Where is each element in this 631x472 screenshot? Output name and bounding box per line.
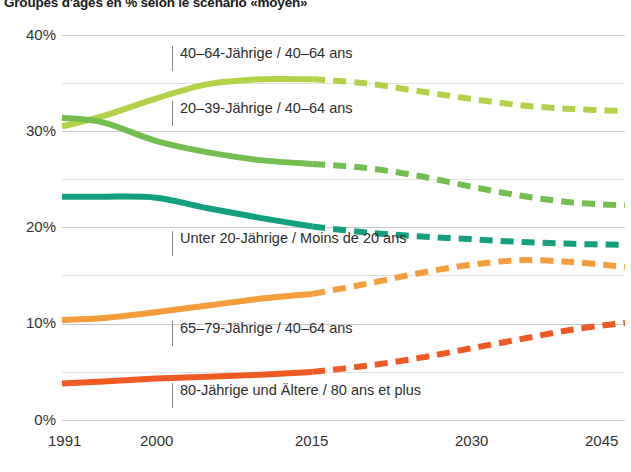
label-under-20: Unter 20-Jährige / Moins de 20 ans	[172, 231, 407, 256]
x-tick-1991: 1991	[48, 432, 81, 449]
chart-root: Groupes d'âges en % selon le scénario «m…	[0, 0, 631, 472]
label-65-79: 65–79-Jährige / 40–64 ans	[172, 321, 353, 346]
gridline-0	[62, 420, 625, 421]
series-path-4-projection	[312, 323, 625, 372]
x-tick-2000: 2000	[140, 432, 173, 449]
x-tick-2045: 2045	[585, 432, 618, 449]
series-path-2-observed	[62, 197, 312, 227]
y-tick-0: 0%	[2, 411, 56, 428]
chart-title: Groupes d'âges en % selon le scénario «m…	[4, 0, 307, 10]
series-path-1-projection	[312, 164, 625, 205]
y-tick-10: 10%	[2, 314, 56, 331]
series-path-0-projection	[312, 79, 625, 111]
series-lines	[62, 35, 625, 420]
y-tick-20: 20%	[2, 218, 56, 235]
plot-area	[62, 35, 625, 420]
x-axis: 1991 2000 2015 2030 2045	[0, 432, 631, 458]
label-20-39: 20–39-Jährige / 40–64 ans	[172, 101, 353, 126]
x-tick-2030: 2030	[455, 432, 488, 449]
label-80-plus: 80-Jährige und Ältere / 80 ans et plus	[172, 383, 421, 408]
y-axis: 40% 30% 20% 10% 0%	[0, 35, 56, 420]
series-path-3-projection	[312, 260, 625, 294]
x-tick-2015: 2015	[295, 432, 328, 449]
y-tick-40: 40%	[2, 26, 56, 43]
series-path-3-observed	[62, 294, 312, 320]
y-tick-30: 30%	[2, 122, 56, 139]
label-40-64: 40–64-Jährige / 40–64 ans	[172, 46, 353, 71]
